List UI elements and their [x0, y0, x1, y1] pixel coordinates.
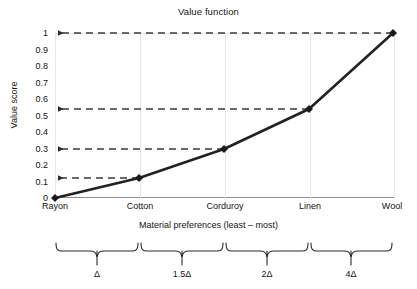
grid-line-rayon — [55, 33, 56, 198]
bracket-cotton-corduroy — [141, 243, 223, 257]
bracket-corduroy-linen — [226, 243, 308, 257]
y-tick-label: 0.8 — [10, 62, 48, 71]
delta-label-4: 4Δ — [321, 269, 381, 279]
x-tick-label-corduroy: Corduroy — [185, 201, 265, 211]
delta-label-3: 2Δ — [237, 269, 297, 279]
x-axis-label: Material preferences (least – most) — [0, 220, 417, 230]
y-tick-label: 0.5 — [10, 112, 48, 121]
x-tick-label-linen: Linen — [270, 201, 350, 211]
y-tick-label: 0.1 — [10, 178, 48, 187]
x-tick-label-wool: Wool — [352, 201, 417, 211]
y-tick-label: 0.2 — [10, 161, 48, 170]
y-tick-label: 0.3 — [10, 145, 48, 154]
delta-label-2: 1.5Δ — [152, 269, 212, 279]
chart-title: Value function — [0, 6, 417, 17]
grid-line-wool — [394, 33, 395, 198]
grid-line-linen — [310, 33, 311, 198]
y-tick-label: 0.7 — [10, 79, 48, 88]
y-tick-label: 0.4 — [10, 128, 48, 137]
x-tick-label-cotton: Cotton — [100, 201, 180, 211]
y-tick-label: 0.6 — [10, 95, 48, 104]
bracket-rayon-cotton — [56, 243, 138, 257]
y-tick-label: 0.9 — [10, 46, 48, 55]
y-axis-tick-labels: 1 0.9 0.8 0.7 0.6 0.5 0.4 0.3 0.2 0.1 0 — [8, 0, 48, 289]
delta-label-1: Δ — [67, 269, 127, 279]
bracket-linen-wool — [311, 243, 392, 257]
chart-container: Value function Value score 1 0.9 0.8 0.7… — [0, 0, 417, 289]
y-tick-label: 1 — [10, 29, 48, 38]
x-tick-label-rayon: Rayon — [15, 201, 95, 211]
grid-line-corduroy — [225, 33, 226, 198]
grid-line-cotton — [140, 33, 141, 198]
